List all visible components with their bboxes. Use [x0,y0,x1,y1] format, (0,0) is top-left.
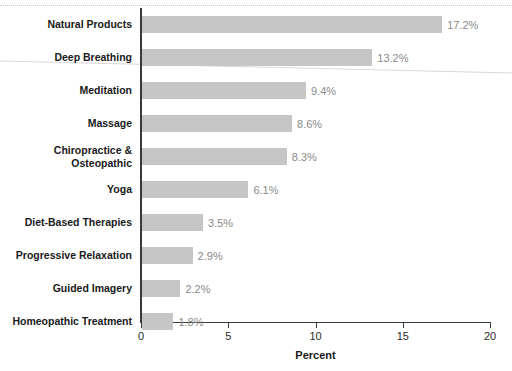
bar-category-label-line: Massage [88,117,132,129]
bar [142,313,173,330]
bar-row: Guided Imagery2.2% [0,272,512,305]
bar-value-label: 13.2% [377,49,408,66]
bar [142,82,306,99]
x-axis-tick-mark [403,323,404,328]
bar-category-label-line: Diet-Based Therapies [25,216,132,228]
x-axis-tick-label: 15 [397,330,409,342]
bar-value-label: 1.8% [178,313,203,330]
bar-category-label: Guided Imagery [0,272,132,305]
bar-category-label-line: Chiropractice & [54,144,132,156]
bar [142,49,372,66]
bar-value-label: 17.2% [447,16,478,33]
bar [142,148,287,165]
x-axis-tick-mark [490,323,491,328]
bar-value-label: 3.5% [208,214,233,231]
bar-category-label: Massage [0,107,132,140]
bar-row: Yoga6.1% [0,173,512,206]
x-axis-tick-label: 0 [138,330,144,342]
x-axis-tick-label: 20 [484,330,496,342]
bar-category-label: Yoga [0,173,132,206]
bar-row: Deep Breathing13.2% [0,41,512,74]
bar-category-label: Chiropractice &Osteopathic [0,140,132,173]
bar-category-label-line: Homeopathic Treatment [12,315,132,327]
bar-row: Diet-Based Therapies3.5% [0,206,512,239]
bar-row: Chiropractice &Osteopathic8.3% [0,140,512,173]
bar-value-label: 2.9% [198,247,223,264]
bar-value-label: 2.2% [185,280,210,297]
bar-value-label: 6.1% [253,181,278,198]
bar-category-label-line: Progressive Relaxation [16,249,132,261]
bar-category-label-line: Osteopathic [71,157,132,169]
bar-value-label: 8.3% [292,148,317,165]
bar-category-label: Diet-Based Therapies [0,206,132,239]
bar-row: Homeopathic Treatment1.8% [0,305,512,338]
bar-category-label-line: Natural Products [47,18,132,30]
bar-row: Progressive Relaxation2.9% [0,239,512,272]
bar [142,16,442,33]
bar [142,214,203,231]
x-axis-tick-mark [228,323,229,328]
x-axis-tick-mark [316,323,317,328]
bar-category-label: Deep Breathing [0,41,132,74]
bar-category-label-line: Deep Breathing [54,51,132,63]
bar-category-label-line: Guided Imagery [53,282,132,294]
bar [142,115,292,132]
x-axis-title: Percent [140,349,491,361]
bar-category-label: Progressive Relaxation [0,239,132,272]
bar [142,280,180,297]
x-axis-tick-label: 10 [309,330,321,342]
bar-category-label: Homeopathic Treatment [0,305,132,338]
bar-chart-figure: Natural Products17.2%Deep Breathing13.2%… [0,0,512,371]
x-axis-tick-mark [141,323,142,328]
bar-row: Massage8.6% [0,107,512,140]
bar-category-label: Natural Products [0,8,132,41]
bar-row: Natural Products17.2% [0,8,512,41]
bar-value-label: 8.6% [297,115,322,132]
bar-value-label: 9.4% [311,82,336,99]
plot-area: Natural Products17.2%Deep Breathing13.2%… [0,0,512,371]
bar [142,247,193,264]
bar-row: Meditation9.4% [0,74,512,107]
bar-category-label: Meditation [0,74,132,107]
x-axis-tick-label: 5 [225,330,231,342]
bar-category-label-line: Meditation [80,84,133,96]
bar-category-label-line: Yoga [107,183,132,195]
bar [142,181,248,198]
